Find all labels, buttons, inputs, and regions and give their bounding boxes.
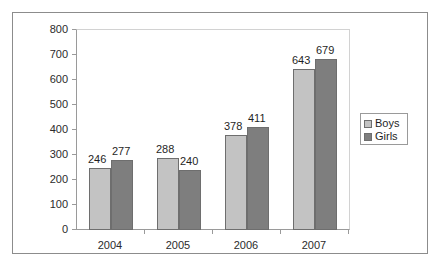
y-axis-tick-label: 400	[34, 124, 68, 135]
x-axis-category-label: 2007	[289, 240, 339, 251]
bar-label-girls-2006: 411	[248, 113, 266, 124]
bar-label-boys-2004: 246	[88, 154, 106, 165]
bar-label-boys-2007: 643	[292, 55, 310, 66]
legend-swatch-girls-icon	[364, 133, 372, 141]
x-axis-category-label: 2006	[221, 240, 271, 251]
bar-boys-2007[interactable]	[293, 69, 315, 230]
legend-item-boys[interactable]: Boys	[364, 117, 403, 130]
y-axis-tick-label: 200	[34, 174, 68, 185]
x-axis-tick-mark	[348, 230, 349, 234]
bar-girls-2006[interactable]	[247, 127, 269, 230]
bar-boys-2005[interactable]	[157, 158, 179, 230]
bar-boys-2004[interactable]	[89, 168, 111, 230]
chart-legend: Boys Girls	[360, 113, 408, 145]
legend-label-boys: Boys	[375, 118, 399, 129]
bar-girls-2004[interactable]	[111, 160, 133, 230]
bar-label-boys-2006: 378	[224, 121, 242, 132]
x-axis-tick-mark	[212, 230, 213, 234]
bar-chart: 800 700 600 500 400 300 200 100 0 246 27…	[0, 0, 444, 271]
bar-label-boys-2005: 288	[156, 144, 174, 155]
bar-label-girls-2005: 240	[180, 156, 198, 167]
bar-girls-2005[interactable]	[179, 170, 201, 230]
legend-label-girls: Girls	[375, 131, 398, 142]
bar-label-girls-2007: 679	[316, 45, 334, 56]
x-axis-tick-mark	[280, 230, 281, 234]
y-axis-tick-label: 700	[34, 49, 68, 60]
x-axis-tick-mark	[144, 230, 145, 234]
bar-label-girls-2004: 277	[112, 146, 130, 157]
x-axis-category-label: 2004	[85, 240, 135, 251]
y-axis-tick-label: 500	[34, 99, 68, 110]
bar-boys-2006[interactable]	[225, 135, 247, 230]
legend-swatch-boys-icon	[364, 120, 372, 128]
y-axis-tick-label: 600	[34, 74, 68, 85]
y-axis-tick-label: 300	[34, 149, 68, 160]
bar-girls-2007[interactable]	[315, 59, 337, 230]
y-axis-tick-label: 0	[34, 224, 68, 235]
y-axis-tick-label: 800	[34, 24, 68, 35]
legend-item-girls[interactable]: Girls	[364, 130, 403, 143]
x-axis-category-label: 2005	[153, 240, 203, 251]
y-axis-tick-label: 100	[34, 199, 68, 210]
